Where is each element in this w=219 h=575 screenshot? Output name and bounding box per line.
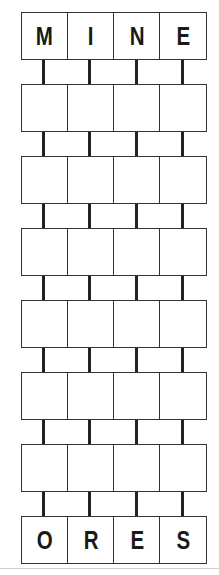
letter-cell: M bbox=[21, 12, 69, 60]
letter-cell: I bbox=[67, 12, 115, 60]
blank-cell[interactable] bbox=[159, 444, 207, 492]
blank-cell[interactable] bbox=[21, 84, 69, 132]
blank-cell[interactable] bbox=[113, 84, 161, 132]
ladder-connector bbox=[181, 348, 184, 372]
blank-cell[interactable] bbox=[67, 372, 115, 420]
letter-cell: E bbox=[113, 516, 161, 564]
ladder-connector bbox=[42, 276, 45, 300]
blank-cell[interactable] bbox=[159, 372, 207, 420]
ladder-connector bbox=[42, 204, 45, 228]
letter-cell: N bbox=[113, 12, 161, 60]
ladder-connector bbox=[88, 492, 91, 516]
blank-cell[interactable] bbox=[21, 156, 69, 204]
divider bbox=[0, 568, 219, 569]
blank-cell[interactable] bbox=[67, 84, 115, 132]
ladder-connector bbox=[135, 132, 138, 156]
ladder-connector bbox=[135, 204, 138, 228]
blank-cell[interactable] bbox=[113, 228, 161, 276]
ladder-connector bbox=[181, 132, 184, 156]
ladder-row-end: O R E S bbox=[21, 516, 207, 564]
ladder-connector bbox=[42, 492, 45, 516]
ladder-connector bbox=[42, 420, 45, 444]
ladder-connector bbox=[135, 420, 138, 444]
blank-cell[interactable] bbox=[113, 444, 161, 492]
ladder-connector bbox=[88, 348, 91, 372]
letter: O bbox=[37, 526, 53, 555]
blank-cell[interactable] bbox=[67, 228, 115, 276]
ladder-row-blank bbox=[21, 156, 207, 204]
ladder-row-start: M I N E bbox=[21, 12, 207, 60]
letter: E bbox=[130, 526, 144, 555]
ladder-connector bbox=[181, 204, 184, 228]
blank-cell[interactable] bbox=[159, 300, 207, 348]
ladder-connector bbox=[135, 492, 138, 516]
blank-cell[interactable] bbox=[159, 156, 207, 204]
ladder-connector bbox=[135, 276, 138, 300]
blank-cell[interactable] bbox=[159, 228, 207, 276]
letter: M bbox=[36, 22, 53, 51]
letter: R bbox=[84, 526, 99, 555]
blank-cell[interactable] bbox=[67, 444, 115, 492]
ladder-connector bbox=[88, 132, 91, 156]
blank-cell[interactable] bbox=[21, 444, 69, 492]
ladder-connector bbox=[88, 204, 91, 228]
letter-cell: O bbox=[21, 516, 69, 564]
ladder-connector bbox=[135, 348, 138, 372]
ladder-connector bbox=[42, 348, 45, 372]
letter-cell: E bbox=[159, 12, 207, 60]
ladder-row-blank bbox=[21, 84, 207, 132]
ladder-row-blank bbox=[21, 444, 207, 492]
letter: I bbox=[88, 22, 94, 51]
blank-cell[interactable] bbox=[113, 372, 161, 420]
blank-cell[interactable] bbox=[21, 300, 69, 348]
ladder-connector bbox=[88, 276, 91, 300]
ladder-row-blank bbox=[21, 300, 207, 348]
blank-cell[interactable] bbox=[113, 300, 161, 348]
letter: E bbox=[176, 22, 190, 51]
ladder-connector bbox=[42, 60, 45, 84]
ladder-connector bbox=[88, 420, 91, 444]
blank-cell[interactable] bbox=[159, 84, 207, 132]
word-ladder-puzzle: M I N E bbox=[0, 0, 219, 575]
ladder-row-blank bbox=[21, 228, 207, 276]
ladder-row-blank bbox=[21, 372, 207, 420]
blank-cell[interactable] bbox=[21, 228, 69, 276]
ladder-connector bbox=[135, 60, 138, 84]
letter-cell: R bbox=[67, 516, 115, 564]
blank-cell[interactable] bbox=[113, 156, 161, 204]
letter: S bbox=[176, 526, 190, 555]
ladder-connector bbox=[181, 420, 184, 444]
letter-cell: S bbox=[159, 516, 207, 564]
ladder-connector bbox=[88, 60, 91, 84]
blank-cell[interactable] bbox=[67, 300, 115, 348]
blank-cell[interactable] bbox=[21, 372, 69, 420]
ladder-connector bbox=[181, 60, 184, 84]
ladder-connector bbox=[42, 132, 45, 156]
ladder-connector bbox=[181, 492, 184, 516]
blank-cell[interactable] bbox=[67, 156, 115, 204]
ladder-connector bbox=[181, 276, 184, 300]
letter: N bbox=[130, 22, 145, 51]
